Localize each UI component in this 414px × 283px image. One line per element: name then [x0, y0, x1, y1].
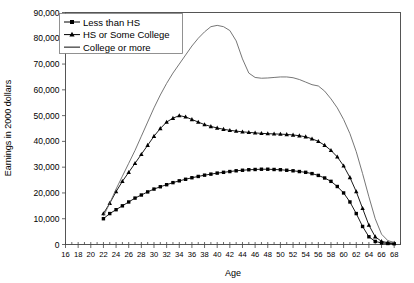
- y-tick-label: 30,000: [34, 162, 60, 172]
- data-point-marker: [234, 169, 237, 172]
- data-point-marker: [140, 193, 143, 196]
- series-line: [103, 169, 394, 244]
- data-point-marker: [367, 235, 370, 238]
- y-tick-label: 50,000: [34, 111, 60, 121]
- x-tick-label: 18: [74, 250, 82, 259]
- data-point-marker: [342, 191, 345, 194]
- y-tick-label: 0: [55, 240, 60, 250]
- legend-square-marker-icon: [70, 20, 74, 24]
- x-tick-label: 36: [188, 250, 196, 259]
- x-axis-tick-labels: 1618202224262830323436384042444648505254…: [61, 250, 398, 259]
- data-point-marker: [203, 173, 206, 176]
- x-axis-ticks: [66, 245, 395, 249]
- x-tick-label: 40: [213, 250, 221, 259]
- data-point-marker: [373, 234, 377, 238]
- data-point-marker: [146, 190, 149, 193]
- data-point-marker: [360, 206, 364, 210]
- x-tick-label: 24: [112, 250, 120, 259]
- data-point-marker: [291, 169, 294, 172]
- data-point-marker: [260, 168, 263, 171]
- data-point-marker: [165, 183, 168, 186]
- data-point-marker: [127, 200, 130, 203]
- data-point-marker: [298, 170, 301, 173]
- data-point-marker: [152, 187, 155, 190]
- data-point-marker: [317, 174, 320, 177]
- legend-label: Less than HS: [83, 17, 140, 28]
- chart-canvas: 010,00020,00030,00040,00050,00060,00070,…: [0, 0, 414, 283]
- data-point-marker: [159, 185, 162, 188]
- data-point-marker: [209, 172, 212, 175]
- series-2: [101, 113, 396, 245]
- legend-label: College or more: [83, 42, 151, 53]
- data-point-marker: [241, 169, 244, 172]
- data-point-marker: [374, 240, 377, 243]
- x-tick-label: 62: [352, 250, 360, 259]
- x-tick-label: 22: [99, 250, 107, 259]
- y-tick-label: 90,000: [34, 8, 60, 18]
- data-point-marker: [367, 223, 371, 227]
- data-point-marker: [354, 189, 358, 193]
- x-tick-label: 28: [137, 250, 145, 259]
- y-tick-label: 60,000: [34, 85, 60, 95]
- y-tick-label: 70,000: [34, 59, 60, 69]
- data-point-marker: [266, 168, 269, 171]
- data-point-marker: [102, 217, 105, 220]
- x-tick-label: 56: [314, 250, 322, 259]
- data-point-marker: [253, 168, 256, 171]
- y-tick-label: 40,000: [34, 136, 60, 146]
- data-point-marker: [348, 175, 352, 179]
- data-point-marker: [108, 212, 111, 215]
- series-layer: [101, 25, 396, 245]
- data-point-marker: [310, 172, 313, 175]
- y-tick-label: 20,000: [34, 188, 60, 198]
- data-point-marker: [222, 171, 225, 174]
- data-point-marker: [114, 208, 117, 211]
- data-point-marker: [355, 212, 358, 215]
- x-tick-label: 68: [390, 250, 398, 259]
- x-tick-label: 58: [327, 250, 335, 259]
- x-tick-label: 60: [339, 250, 347, 259]
- data-point-marker: [348, 200, 351, 203]
- data-point-marker: [379, 239, 383, 243]
- legend-label: HS or Some College: [83, 29, 170, 40]
- data-point-marker: [329, 180, 332, 183]
- data-point-marker: [164, 120, 168, 124]
- x-tick-label: 54: [301, 250, 309, 259]
- data-point-marker: [322, 143, 326, 147]
- data-point-marker: [177, 113, 181, 117]
- x-tick-label: 20: [87, 250, 95, 259]
- data-point-marker: [323, 176, 326, 179]
- data-point-marker: [304, 171, 307, 174]
- data-point-marker: [361, 225, 364, 228]
- data-point-marker: [178, 179, 181, 182]
- x-tick-label: 66: [377, 250, 385, 259]
- y-tick-label: 80,000: [34, 33, 60, 43]
- x-tick-label: 50: [276, 250, 284, 259]
- data-point-marker: [190, 176, 193, 179]
- data-point-marker: [279, 168, 282, 171]
- data-point-marker: [197, 175, 200, 178]
- x-tick-label: 38: [200, 250, 208, 259]
- chart-legend: Less than HSHS or Some CollegeCollege or…: [60, 14, 183, 54]
- earnings-by-age-chart: 010,00020,00030,00040,00050,00060,00070,…: [0, 0, 414, 283]
- data-point-marker: [247, 168, 250, 171]
- data-point-marker: [336, 185, 339, 188]
- x-tick-label: 44: [238, 250, 246, 259]
- x-tick-label: 34: [175, 250, 183, 259]
- x-tick-label: 30: [150, 250, 158, 259]
- data-point-marker: [216, 171, 219, 174]
- x-tick-label: 32: [162, 250, 170, 259]
- x-tick-label: 64: [365, 250, 373, 259]
- data-point-marker: [285, 169, 288, 172]
- x-tick-label: 52: [289, 250, 297, 259]
- x-tick-label: 46: [251, 250, 259, 259]
- data-point-marker: [121, 204, 124, 207]
- y-tick-label: 10,000: [34, 214, 60, 224]
- x-axis-title: Age: [225, 268, 241, 278]
- x-tick-label: 26: [124, 250, 132, 259]
- y-axis-title: Earnings in 2000 dollars: [3, 79, 13, 176]
- data-point-marker: [133, 196, 136, 199]
- data-point-marker: [272, 168, 275, 171]
- data-point-marker: [171, 181, 174, 184]
- x-tick-label: 16: [61, 250, 69, 259]
